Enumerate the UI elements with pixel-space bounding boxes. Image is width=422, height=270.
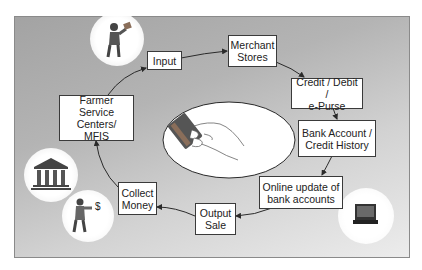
node-online-update: Online update of bank accounts — [259, 176, 343, 209]
node-output-sale: Output Sale — [195, 203, 236, 235]
farmer-with-card-icon — [90, 12, 144, 66]
node-bank-account-credit-history: Bank Account / Credit History — [298, 120, 376, 157]
farmer-with-money-icon: $ — [62, 190, 114, 242]
computer-icon — [338, 188, 394, 244]
node-farmer-service-centers: Farmer Service Centers/ MFIS — [59, 95, 134, 141]
node-input: Input — [147, 51, 182, 70]
node-merchant-stores: Merchant Stores — [228, 35, 277, 67]
node-collect-money: Collect Money — [118, 182, 157, 215]
node-credit-debit-epurse: Credit / Debit / e-Purse — [291, 78, 363, 109]
dollar-sign: $ — [95, 201, 101, 212]
